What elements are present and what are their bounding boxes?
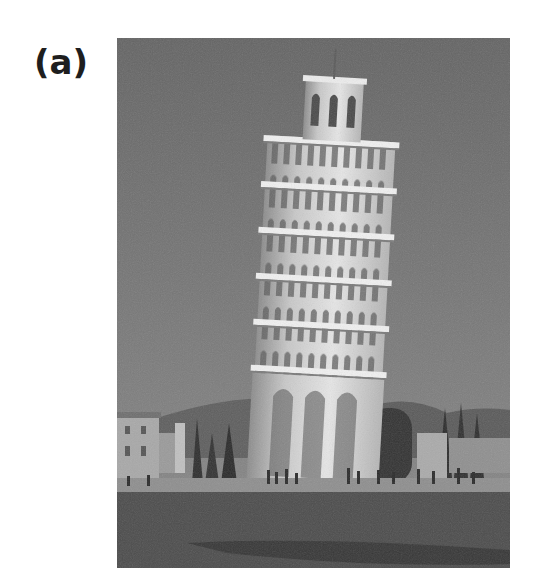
figure-label: (a) xyxy=(34,42,88,82)
photo-leaning-tower xyxy=(117,38,510,568)
tower-illustration xyxy=(117,38,510,568)
